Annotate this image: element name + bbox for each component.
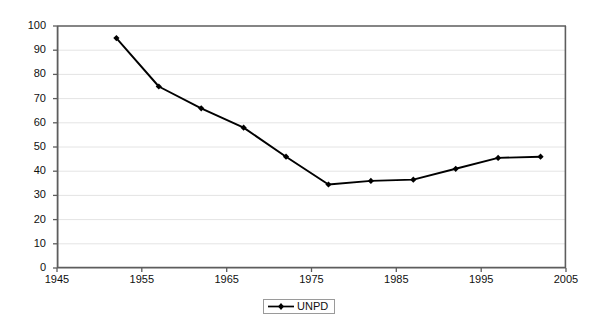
y-axis-tick-label: 0 (12, 262, 46, 273)
x-axis-tick-label: 1945 (34, 274, 80, 285)
x-axis-tick-label: 1965 (204, 274, 250, 285)
y-axis-tick-label: 50 (12, 141, 46, 152)
y-axis-ticks (53, 26, 57, 268)
y-axis-tick-label: 60 (12, 117, 46, 128)
y-axis-tick-label: 70 (12, 93, 46, 104)
legend-marker-icon (268, 302, 294, 311)
y-axis-tick-label: 90 (12, 44, 46, 55)
x-axis-tick-label: 1975 (289, 274, 335, 285)
x-axis-ticks (57, 268, 566, 272)
y-axis-tick-label: 30 (12, 189, 46, 200)
legend-item-label-unpd: UNPD (297, 301, 328, 312)
y-axis-tick-label: 80 (12, 68, 46, 79)
y-axis-tick-label: 10 (12, 238, 46, 249)
x-axis-tick-label: 1955 (119, 274, 165, 285)
x-axis-tick-label: 1995 (458, 274, 504, 285)
x-axis-tick-label: 1985 (373, 274, 419, 285)
y-axis-tick-label: 100 (12, 20, 46, 31)
y-axis-tick-label: 40 (12, 165, 46, 176)
line-chart: 0102030405060708090100 19451955196519751… (0, 0, 602, 330)
y-axis-tick-label: 20 (12, 214, 46, 225)
x-axis-tick-label: 2005 (543, 274, 589, 285)
chart-legend: UNPD (263, 299, 335, 314)
